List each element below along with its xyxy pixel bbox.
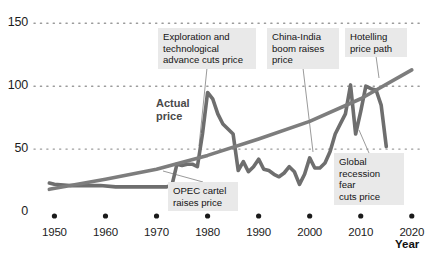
x-tick-label-1990: 1990 (234, 226, 284, 238)
y-tick-label-50: 50 (0, 141, 28, 155)
y-tick-label-150: 150 (0, 15, 28, 29)
annotation-china-india: China-India boom raises price (267, 28, 339, 69)
y-tick-label-0: 0 (0, 204, 28, 218)
x-tick-label-1970: 1970 (132, 226, 182, 238)
x-tick-label-1980: 1980 (183, 226, 233, 238)
x-tick-label-2020: 2020 (387, 226, 430, 238)
annotation-exploration: Exploration and technological advance cu… (158, 28, 256, 69)
annotation-recession: Global recession fear cuts price (334, 153, 404, 205)
x-tick-marks (52, 213, 415, 218)
x-tick-label-2010: 2010 (336, 226, 386, 238)
x-tick-label-2000: 2000 (285, 226, 335, 238)
x-axis-title: Year (395, 238, 419, 250)
annotation-opec: OPEC cartel raises price (168, 182, 238, 211)
oil-price-chart: 050100150 195019601970198019902000201020… (0, 0, 430, 258)
annotation-hotelling: Hotelling price path (345, 28, 407, 57)
x-tick-label-1960: 1960 (80, 226, 130, 238)
series-label-actual-price: Actual price (156, 97, 190, 122)
x-tick-label-1950: 1950 (29, 226, 79, 238)
y-tick-label-100: 100 (0, 78, 28, 92)
